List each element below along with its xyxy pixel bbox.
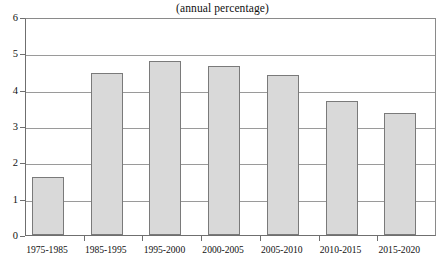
x-tick-mark — [201, 236, 202, 241]
y-tick-label: 3 — [13, 120, 18, 133]
bar — [149, 61, 181, 235]
x-tick-label: 2000-2005 — [193, 244, 253, 256]
y-tick-label: 1 — [13, 193, 18, 206]
x-tick-mark — [377, 236, 378, 241]
y-axis: 0123456 — [0, 0, 25, 263]
bar — [32, 177, 64, 235]
x-axis: 1975-19851985-19951995-20002000-20052005… — [0, 236, 445, 263]
y-tick-label: 2 — [13, 156, 18, 169]
chart-title: (annual percentage) — [0, 1, 445, 15]
x-tick-mark — [84, 236, 85, 241]
y-tick-label: 6 — [13, 11, 18, 24]
bar — [326, 101, 358, 235]
x-tick-label: 2015-2020 — [369, 244, 429, 256]
y-tick-label: 4 — [13, 84, 18, 97]
y-tick-label: 5 — [13, 47, 18, 60]
x-tick-label: 1985-1995 — [76, 244, 136, 256]
x-tick-label: 2005-2010 — [252, 244, 312, 256]
bar — [384, 113, 416, 235]
bar-chart-figure: (annual percentage) 0123456 1975-1985198… — [0, 0, 445, 263]
bar — [267, 75, 299, 235]
x-tick-mark — [319, 236, 320, 241]
x-tick-label: 2010-2015 — [311, 244, 371, 256]
bar — [208, 66, 240, 235]
plot-area — [25, 18, 436, 236]
x-tick-label: 1995-2000 — [134, 244, 194, 256]
gridline — [26, 55, 435, 56]
x-tick-label: 1975-1985 — [17, 244, 77, 256]
x-tick-mark — [260, 236, 261, 241]
bar — [91, 73, 123, 235]
x-tick-mark — [142, 236, 143, 241]
